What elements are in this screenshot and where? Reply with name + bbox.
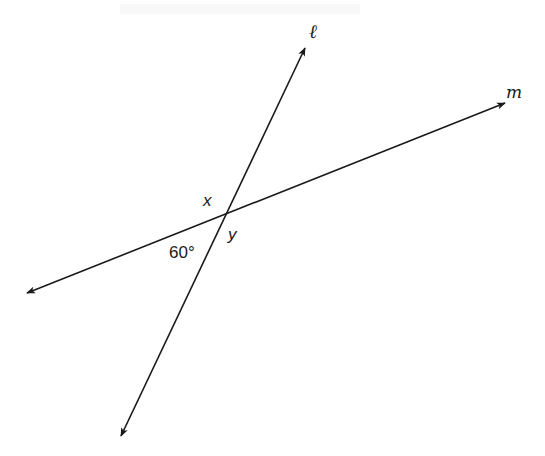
line-l <box>121 48 305 436</box>
geometry-figure: ℓ m x y 60° <box>0 0 545 456</box>
angle-y-label: y <box>227 225 238 244</box>
angle-x-label: x <box>202 191 212 210</box>
line-l-label: ℓ <box>309 20 317 42</box>
line-m-label: m <box>506 82 522 102</box>
angle-60-label: 60° <box>169 243 195 262</box>
